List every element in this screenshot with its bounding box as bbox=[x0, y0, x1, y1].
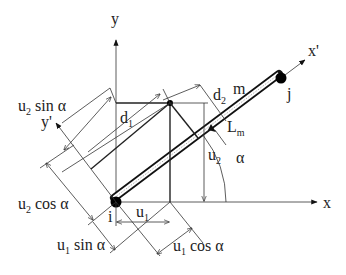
member-displacement-diagram: y x x' i j m d1 d2 Lm u2 bbox=[0, 0, 346, 275]
d1-label: d1 bbox=[120, 109, 133, 129]
d2-label: d2 bbox=[213, 86, 226, 106]
u1-sin-label: u1 sin α bbox=[57, 236, 106, 256]
member-length-label: Lm bbox=[227, 118, 245, 138]
angle-label: α bbox=[236, 149, 245, 166]
global-axes: y x bbox=[111, 10, 331, 211]
y-axis-label: y bbox=[111, 10, 119, 28]
x-axis-label: x bbox=[323, 194, 331, 211]
x-local-axis-label: x' bbox=[308, 42, 319, 59]
node-j bbox=[276, 73, 287, 84]
u1-cos-label: u1 cos α bbox=[173, 237, 224, 257]
node-j-label: j bbox=[286, 85, 291, 103]
node-i-label: i bbox=[108, 208, 113, 225]
u1-label: u1 bbox=[136, 203, 149, 223]
y-local-axis-label: y' bbox=[41, 113, 52, 131]
y-local-axis bbox=[56, 123, 116, 202]
u2-cos-label: u2 cos α bbox=[18, 195, 69, 215]
member-label: m bbox=[233, 80, 246, 97]
x-local-axis bbox=[285, 60, 305, 75]
